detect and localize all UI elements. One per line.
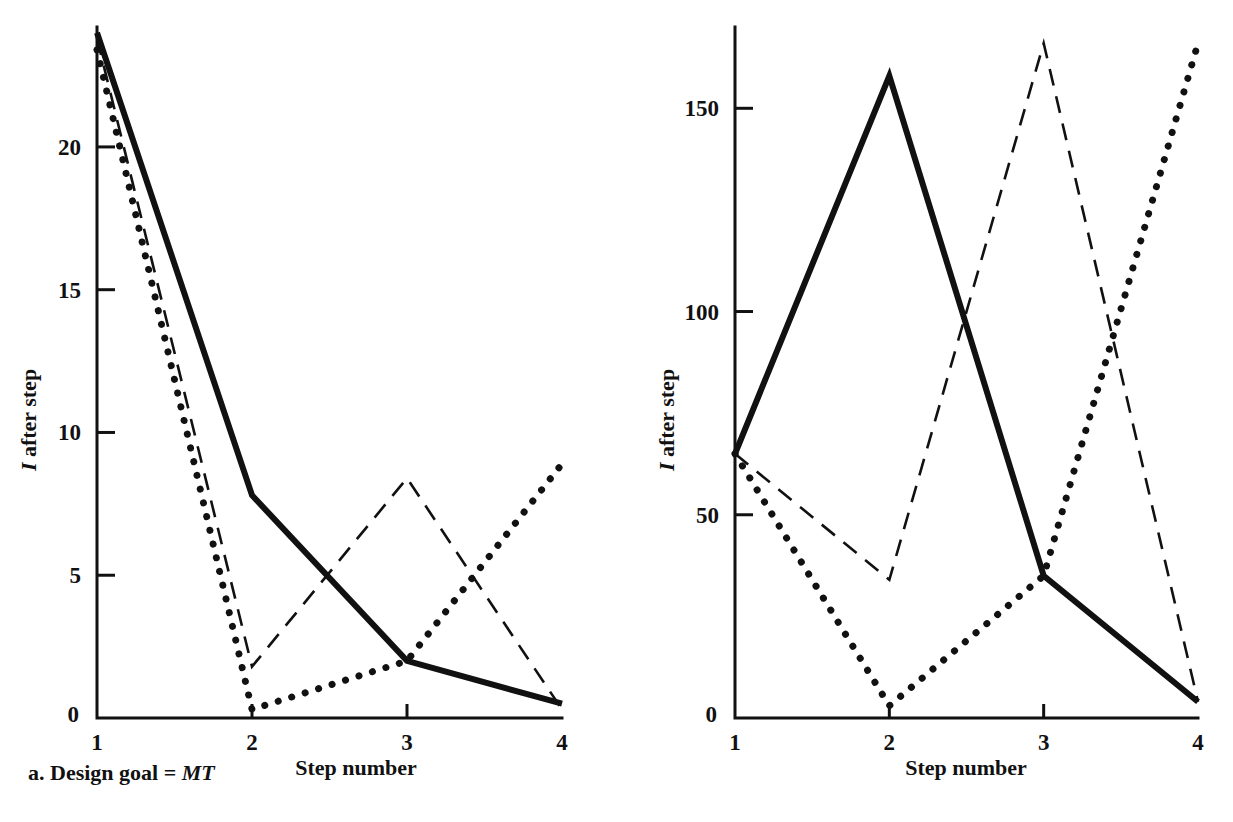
y-tick-label-150: 150 [685,96,720,121]
x-tick-label-1: 1 [91,730,103,755]
chart-b-svg: 1234 050100150 Step number I after step [616,0,1233,822]
y-tick-label-20: 20 [58,135,81,160]
y-axis-title-a: I after step [16,369,41,472]
x-tick-label-2: 2 [884,730,896,755]
svg-text:I after step: I after step [654,369,679,472]
series-dashed-a [97,38,562,709]
x-tick-labels-a: 1234 [91,730,568,755]
caption-a-prefix: a. Design goal = [28,760,182,785]
x-axis-title-b: Step number [905,755,1027,780]
y-tick-label-10: 10 [58,420,81,445]
y-axis-title-a-rest: after step [16,369,41,463]
x-tick-label-4: 4 [1192,730,1204,755]
y-tick-labels-a: 05101520 [58,135,81,727]
y-axis-title-b-rest: after step [654,369,679,463]
chart-panel-b: 1234 050100150 Step number I after step … [616,0,1233,822]
series-dashed-b [735,43,1198,701]
x-axis-title-a: Step number [295,755,417,780]
y-tick-marks-a [97,147,115,575]
x-tick-label-1: 1 [729,730,741,755]
y-tick-label-100: 100 [685,300,720,325]
series-dotted-b [735,43,1198,706]
x-tick-label-4: 4 [556,730,568,755]
chart-a-svg: 1234 05101520 Step number I after step [0,0,616,822]
x-tick-marks-a [252,704,407,718]
series-solid-b [735,76,1198,702]
figure-two-panel-line-charts: 1234 05101520 Step number I after step a… [0,0,1233,822]
x-tick-label-2: 2 [246,730,258,755]
x-tick-label-3: 3 [401,730,413,755]
y-tick-label-50: 50 [696,503,719,528]
caption-a: a. Design goal = MT [28,760,215,786]
x-tick-marks-b [889,704,1043,718]
y-tick-label-15: 15 [58,278,81,303]
axis-lines-b [735,27,1198,718]
svg-text:I after step: I after step [16,369,41,472]
y-tick-label-0: 0 [68,702,80,727]
x-tick-labels-b: 1234 [729,730,1204,755]
y-tick-label-5: 5 [70,563,82,588]
series-dotted-a [97,50,562,710]
x-tick-label-3: 3 [1038,730,1050,755]
chart-b-axes [735,27,1198,718]
chart-b-series [735,43,1198,706]
chart-a-axes [97,27,562,718]
y-axis-title-b: I after step [654,369,679,472]
chart-panel-a: 1234 05101520 Step number I after step a… [0,0,616,822]
y-tick-label-0: 0 [706,702,718,727]
chart-a-series [97,33,562,710]
y-tick-labels-b: 050100150 [685,96,720,727]
caption-a-value: MT [182,760,215,785]
axis-lines-a [97,27,562,718]
